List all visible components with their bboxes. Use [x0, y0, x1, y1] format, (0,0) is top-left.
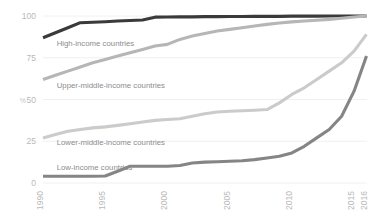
- series-line: [43, 56, 367, 176]
- series-label: Upper-middle-income countries: [57, 81, 165, 90]
- series-label: High-income countries: [57, 39, 135, 48]
- y-axis-tick-label: 50: [27, 95, 37, 105]
- chart-canvas: 025%5075100 1990199520002005201020152016…: [0, 0, 387, 220]
- x-axis-tick-label: 2010: [284, 191, 294, 210]
- series-label: Lower-middle-income countries: [57, 138, 165, 147]
- x-axis-tick-label: 2015: [346, 191, 356, 210]
- y-axis-tick-label: 75: [27, 53, 37, 63]
- x-axis-tick-label: 2000: [159, 191, 169, 210]
- y-axis-tick-label: 0: [31, 178, 36, 188]
- x-axis-tick-label: 2016: [359, 191, 369, 210]
- y-axis-unit-label: %: [20, 97, 26, 104]
- y-axis-tick-label: 25: [27, 136, 37, 146]
- series-label: Low-income countries: [57, 163, 133, 172]
- x-axis-tick-labels: 1990199520002005201020152016: [35, 191, 369, 210]
- line-chart: 025%5075100 1990199520002005201020152016…: [0, 0, 387, 220]
- x-axis-tick-label: 1995: [97, 191, 107, 210]
- x-axis-tick-label: 2005: [222, 191, 232, 210]
- x-axis-tick-label: 1990: [35, 191, 45, 210]
- y-axis-tick-labels: 025%5075100: [20, 11, 37, 188]
- y-axis-tick-label: 100: [22, 11, 36, 21]
